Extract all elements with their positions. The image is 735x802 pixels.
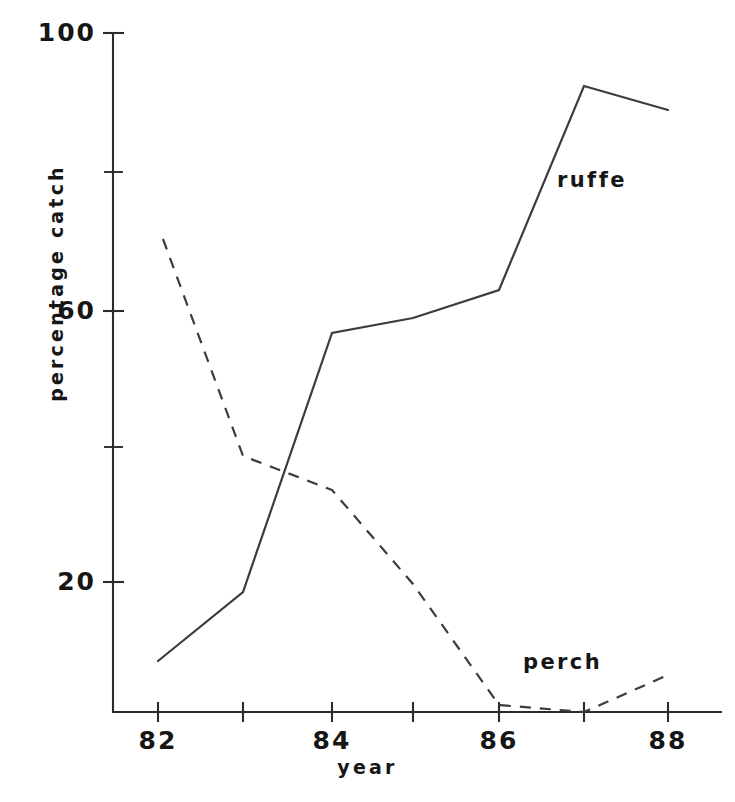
y-axis-title: percentage catch: [41, 133, 71, 433]
ytick-label-20: 20: [0, 569, 96, 594]
line-chart-figure: 100 60 20 82 84 86 88 percentage catch y…: [0, 0, 735, 802]
xtick-label-82: 82: [118, 728, 198, 753]
y-axis-title-text: percentage catch: [41, 133, 71, 433]
series-line-perch: [163, 239, 668, 712]
x-axis-title: year: [0, 756, 735, 778]
axis-spines: [113, 33, 722, 712]
xtick-label-88: 88: [628, 728, 708, 753]
ytick-label-100: 100: [0, 20, 96, 45]
xtick-label-86: 86: [459, 728, 539, 753]
series-annotation-perch: perch: [523, 652, 602, 673]
xtick-label-84: 84: [292, 728, 372, 753]
plot-area: [0, 0, 735, 802]
series-annotation-ruffe: ruffe: [557, 170, 627, 191]
